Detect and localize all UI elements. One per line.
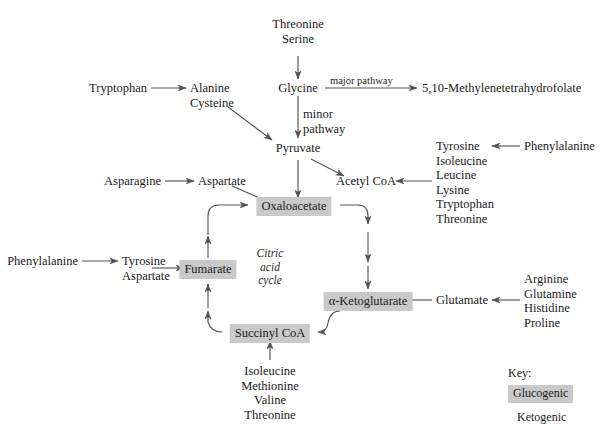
node-tyrosine-aspartate: Tyrosine Aspartate xyxy=(122,254,170,283)
node-tryptophan: Tryptophan xyxy=(89,81,147,96)
list-succinyl-coa-precursors: Isoleucine Methionine Valine Threonine xyxy=(241,364,299,422)
list-ketogenic-precursors: Tyrosine Isoleucine Leucine Lysine Trypt… xyxy=(436,139,494,226)
node-methylenetetrahydrofolate: 5,10-Methylenetetrahydrofolate xyxy=(422,81,581,96)
node-aspartate: Aspartate xyxy=(198,174,246,189)
key-swatch-glucogenic: Glucogenic xyxy=(508,385,573,403)
node-succinyl-coa: Succinyl CoA xyxy=(230,324,310,343)
amino-acid-catabolism-diagram: Threonine Serine Glycine major pathway 5… xyxy=(0,0,609,439)
node-glutamate: Glutamate xyxy=(436,293,488,308)
key-legend: Key: Glucogenic Ketogenic xyxy=(508,366,609,427)
arrow-cysteine-to-pyruvate xyxy=(228,107,272,140)
list-glutamate-precursors: Arginine Glutamine Histidine Proline xyxy=(524,272,577,330)
label-minor-pathway: minor pathway xyxy=(303,107,345,136)
node-fumarate: Fumarate xyxy=(179,260,236,279)
node-threonine-serine: Threonine Serine xyxy=(272,17,323,46)
label-major-pathway: major pathway xyxy=(330,75,393,88)
node-acetyl-coa: Acetyl CoA xyxy=(331,172,401,191)
arrow-akg-to-succinylcoa xyxy=(318,311,340,332)
node-pyruvate: Pyruvate xyxy=(276,141,320,156)
arrow-succinylcoa-to-fumarate xyxy=(208,311,222,332)
node-oxaloacetate: Oxaloacetate xyxy=(256,197,331,216)
node-alpha-ketoglutarate: α-Ketoglutarate xyxy=(324,292,413,311)
node-asparagine: Asparagine xyxy=(104,174,161,189)
key-swatch-ketogenic: Ketogenic xyxy=(512,409,571,427)
node-phenylalanine-left: Phenylalanine xyxy=(7,254,78,269)
label-citric-acid-cycle: Citric acid cycle xyxy=(257,247,284,288)
key-title: Key: xyxy=(508,366,609,381)
arrow-oxaloacetate-to-akg-seg1 xyxy=(340,205,368,224)
node-alanine-cysteine: Alanine Cysteine xyxy=(190,81,234,110)
node-phenylalanine-right: Phenylalanine xyxy=(524,139,595,154)
node-glycine: Glycine xyxy=(278,81,318,96)
arrow-fumarate-to-oxaloacetate xyxy=(208,205,248,235)
